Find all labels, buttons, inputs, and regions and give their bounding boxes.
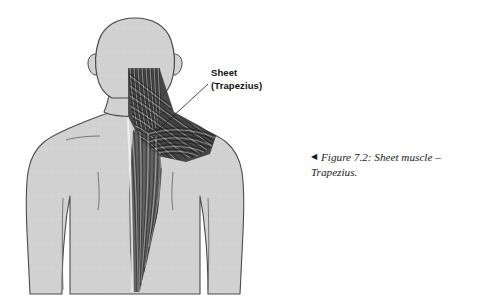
callout-label: Sheet (Trapezius) [211, 66, 262, 92]
callout-label-line2: (Trapezius) [211, 79, 262, 92]
caption-marker-icon: ◀ [311, 152, 317, 161]
figure-caption: ◀Figure 7.2: Sheet muscle – Trapezius. [311, 149, 471, 181]
callout-label-line1: Sheet [211, 66, 262, 79]
figure-container: Sheet (Trapezius) ◀Figure 7.2: Sheet mus… [0, 0, 483, 306]
caption-text: Figure 7.2: Sheet muscle – Trapezius. [311, 151, 441, 179]
